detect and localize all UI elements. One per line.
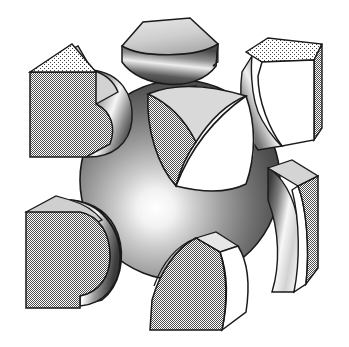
unit-cell-exploded-diagram <box>0 0 349 347</box>
unit-cell-diagram <box>0 0 349 347</box>
right-flat-face <box>314 44 322 140</box>
